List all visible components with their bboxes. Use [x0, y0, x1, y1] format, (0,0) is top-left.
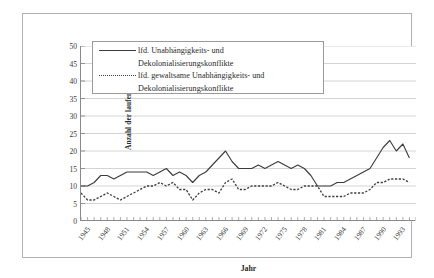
- y-tick-label: 0: [73, 217, 77, 226]
- chart-figure: 05101520253035404550 1945194819511954195…: [0, 0, 434, 278]
- series-line-1: [81, 179, 409, 200]
- legend-dotted-line-icon: [97, 70, 138, 81]
- x-tick-label: 1984: [332, 225, 348, 242]
- y-tick-label: 10: [69, 182, 77, 191]
- x-tick-label: 1948: [96, 225, 112, 242]
- legend-item-dotted-line2: Dekolonialisierungskonflikte: [97, 83, 319, 96]
- x-tick-label: 1987: [352, 225, 368, 242]
- figure-border: 05101520253035404550 1945194819511954195…: [22, 13, 412, 258]
- x-tick-label: 1963: [194, 225, 210, 242]
- x-tick-label: 1954: [135, 225, 151, 242]
- x-tick-label: 1990: [371, 225, 387, 242]
- y-tick-label: 5: [73, 199, 77, 208]
- x-tick-label: 1957: [155, 225, 171, 242]
- x-tick-label: 1969: [234, 225, 250, 242]
- chart-legend: lfd. Unabhängigkeits- und Dekolonialisie…: [92, 41, 324, 94]
- y-tick-label: 25: [69, 129, 77, 138]
- legend-solid-line-icon: [97, 45, 138, 56]
- legend-label-dotted-line1: lfd. gewaltsame Unabhängigkeits- und: [138, 70, 264, 83]
- legend-label-dotted-line2: Dekolonialisierungskonflikte: [138, 83, 234, 96]
- legend-item-solid-line2: Dekolonialisierungskonflikte: [97, 58, 319, 71]
- y-tick-label: 50: [69, 42, 77, 51]
- x-axis-title: Jahr: [81, 264, 416, 273]
- y-tick-label: 35: [69, 94, 77, 103]
- y-tick-label: 40: [69, 77, 77, 86]
- x-tick-marks: [81, 217, 416, 221]
- y-tick-label: 20: [69, 147, 77, 156]
- y-tick-label: 30: [69, 112, 77, 121]
- legend-label-solid-line2: Dekolonialisierungskonflikte: [138, 58, 234, 71]
- legend-item-solid: lfd. Unabhängigkeits- und: [97, 45, 319, 58]
- y-tick-marks: [81, 46, 85, 221]
- x-tick-label: 1951: [115, 225, 131, 242]
- y-tick-label: 15: [69, 164, 77, 173]
- x-tick-label: 1966: [214, 225, 230, 242]
- x-tick-label: 1978: [293, 225, 309, 242]
- legend-label-solid-line1: lfd. Unabhängigkeits- und: [138, 45, 224, 58]
- x-tick-label: 1993: [391, 225, 407, 242]
- x-tick-label: 1945: [76, 225, 92, 242]
- x-tick-label: 1960: [174, 225, 190, 242]
- x-tick-label: 1981: [312, 225, 328, 242]
- x-tick-label: 1972: [253, 225, 269, 242]
- legend-item-dotted: lfd. gewaltsame Unabhängigkeits- und: [97, 70, 319, 83]
- y-tick-label: 45: [69, 59, 77, 68]
- x-tick-label: 1975: [273, 225, 289, 242]
